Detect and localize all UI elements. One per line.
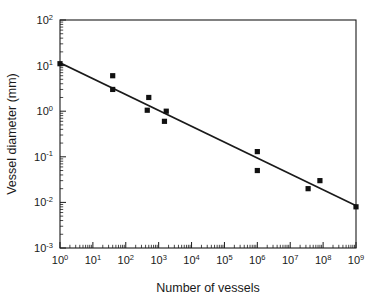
x-tick-label: 106 [249, 253, 265, 267]
x-tick-label: 101 [85, 253, 101, 267]
loglog-scatter-plot: 100101102103104105106107108109 102101100… [0, 0, 373, 303]
data-point-marker [110, 87, 115, 92]
y-tick-label: 10-3 [34, 241, 53, 255]
x-tick-label: 108 [315, 253, 331, 267]
x-tick-label: 109 [348, 253, 364, 267]
x-tick-label: 103 [150, 253, 166, 267]
x-tick-label: 107 [282, 253, 298, 267]
x-tick-label: 100 [52, 253, 68, 267]
data-point-marker [317, 178, 322, 183]
y-tick-label: 101 [37, 58, 53, 72]
data-point-marker [145, 108, 150, 113]
data-point-marker [57, 61, 62, 66]
data-point-marker [162, 119, 167, 124]
data-point-marker [146, 95, 151, 100]
x-tick-label: 105 [216, 253, 232, 267]
y-tick-label: 10-2 [34, 195, 53, 209]
y-tick-label: 100 [37, 104, 53, 118]
x-axis-tick-labels: 100101102103104105106107108109 [52, 253, 364, 267]
x-axis-title: Number of vessels [156, 281, 260, 295]
x-tick-label: 104 [183, 253, 199, 267]
y-axis-title: Vessel diameter (mm) [5, 73, 19, 195]
y-tick-label: 10-1 [34, 149, 53, 163]
y-axis-tick-labels: 10210110010-110-210-3 [34, 13, 53, 255]
data-point-marker [353, 204, 358, 209]
data-point-marker [306, 186, 311, 191]
data-point-marker [164, 109, 169, 114]
chart-figure: 100101102103104105106107108109 102101100… [0, 0, 373, 303]
x-tick-label: 102 [118, 253, 134, 267]
data-point-marker [255, 149, 260, 154]
data-point-marker [110, 73, 115, 78]
data-point-marker [255, 168, 260, 173]
y-tick-label: 102 [37, 13, 53, 27]
